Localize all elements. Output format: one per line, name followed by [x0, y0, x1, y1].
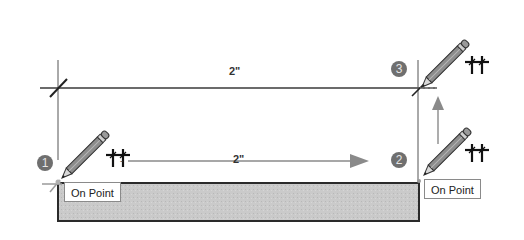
inference-crosshair-icon	[465, 56, 489, 74]
step-badge-3: 3	[391, 61, 407, 77]
on-point-tooltip-1: On Point	[64, 182, 121, 202]
top-dimension-label: 2"	[229, 65, 240, 77]
pencil-cursor-icon	[421, 127, 472, 178]
step-badge-1: 1	[37, 155, 53, 171]
on-point-tooltip-2: On Point	[424, 179, 481, 199]
pencil-cursor-icon	[59, 130, 110, 181]
svg-text:-: -	[120, 156, 123, 166]
middle-dimension-label: 2"	[233, 153, 244, 165]
pencil-cursor-icon	[419, 39, 470, 90]
arrow-up-icon	[432, 96, 444, 144]
arrow-right-icon	[128, 154, 369, 168]
endpoint-marker-2	[417, 179, 421, 183]
inference-crosshair-icon	[465, 144, 489, 162]
step-badge-2: 2	[391, 152, 407, 168]
inference-crosshair-icon	[106, 149, 130, 167]
